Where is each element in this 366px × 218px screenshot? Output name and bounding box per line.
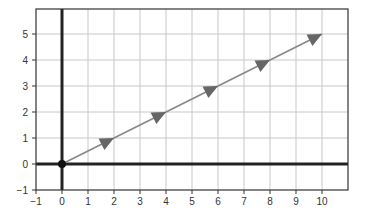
x-tick-label: 2 <box>111 196 117 207</box>
y-tick-label: 1 <box>22 133 28 144</box>
y-tick-label: 4 <box>22 55 28 66</box>
x-tick-label: 0 <box>59 196 65 207</box>
x-tick-label: 5 <box>189 196 195 207</box>
y-tick-label: −1 <box>17 185 29 196</box>
y-axis-ticks: −1012345 <box>17 29 36 196</box>
x-tick-label: 6 <box>215 196 221 207</box>
x-tick-label: 3 <box>137 196 143 207</box>
x-tick-label: 1 <box>85 196 91 207</box>
x-tick-label: 7 <box>241 196 247 207</box>
x-tick-label: −1 <box>30 196 42 207</box>
x-tick-label: 4 <box>163 196 169 207</box>
data-series <box>58 34 322 168</box>
y-tick-label: 5 <box>22 29 28 40</box>
y-tick-label: 3 <box>22 81 28 92</box>
origin-point <box>58 160 66 168</box>
y-tick-label: 0 <box>22 159 28 170</box>
x-tick-label: 8 <box>267 196 273 207</box>
x-tick-label: 10 <box>316 196 328 207</box>
line-chart: −1012345678910 −1012345 <box>0 0 366 218</box>
x-tick-label: 9 <box>293 196 299 207</box>
x-axis-ticks: −1012345678910 <box>30 190 328 207</box>
y-tick-label: 2 <box>22 107 28 118</box>
